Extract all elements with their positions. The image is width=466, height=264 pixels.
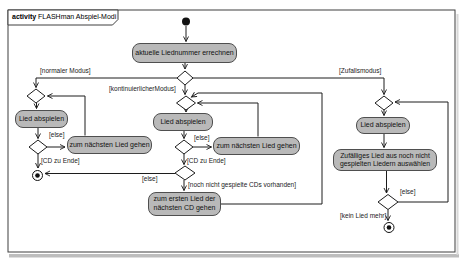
frame-title: activity FLASHman Abspiel-Modi (12, 13, 116, 20)
guard-continuous-mode: [kontinuierlicherModus] (109, 86, 176, 93)
action-label: Lied abspielen (160, 118, 205, 127)
guard-left-else: [else] (49, 132, 65, 139)
action-first-song-next-cd: zum ersten Lied der nächsten CD gehen (148, 192, 221, 216)
action-label-line1: Zufälliges Lied aus noch nicht (340, 152, 430, 160)
action-label: zum nächsten Lied gehen (69, 141, 149, 150)
guard-normal-mode: [normaler Modus] (40, 68, 91, 75)
guard-no-song-left: [kein Lied mehr] (340, 213, 386, 220)
final-node-right (384, 223, 394, 233)
action-label-line2: gespielten Liedern auswählen (340, 160, 430, 168)
guard-mid-cd-end: [CD zu Ende] (187, 158, 226, 165)
activity-diagram: activity FLASHman Abspiel-Modi aktuelle … (0, 0, 466, 264)
initial-node (182, 18, 190, 26)
frame-right-shadow (457, 14, 459, 255)
frame-title-text: FLASHman Abspiel-Modi (38, 13, 116, 20)
final-node-left (33, 171, 43, 181)
action-left-next-song: zum nächsten Lied gehen (67, 136, 152, 154)
guard-random-mode: [Zufallsmodus] (339, 68, 381, 75)
action-left-play-song: Lied abspielen (15, 110, 68, 128)
guard-mid-else-final: [else] (142, 176, 158, 183)
action-mid-next-song: zum nächsten Lied gehen (213, 137, 300, 155)
guard-right-else: [else] (400, 189, 416, 196)
action-mid-play-song: Lied abspielen (153, 113, 213, 131)
action-label: zum nächsten Lied gehen (216, 142, 296, 151)
action-label: Lied abspielen (360, 121, 405, 130)
action-label: Lied abspielen (19, 115, 64, 124)
action-calc-song-number: aktuelle Liednummer errechnen (132, 43, 237, 63)
action-random-song-select: Zufälliges Lied aus noch nicht gespielte… (333, 149, 437, 171)
frame-keyword: activity (12, 13, 36, 20)
guard-cds-available: [noch nicht gespielte CDs vorhanden] (188, 182, 296, 189)
action-label: aktuelle Liednummer errechnen (135, 49, 233, 58)
action-right-play-song: Lied abspielen (356, 117, 410, 134)
frame-bottom-shadow (9, 254, 459, 258)
guard-mid-else-next: [else] (194, 135, 210, 142)
action-label-line2: nächsten CD gehen (154, 204, 216, 213)
guard-left-cd-end: [CD zu Ende] (41, 158, 80, 165)
action-label-line1: zum ersten Lied der (154, 195, 216, 204)
